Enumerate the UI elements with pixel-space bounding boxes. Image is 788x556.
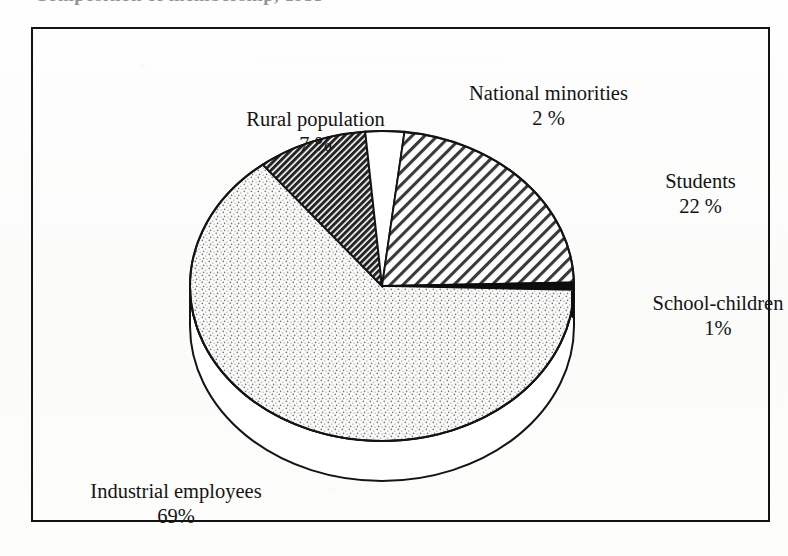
pie-wall-school-children [571, 290, 574, 319]
label-national-minorities-pct: 2 % [426, 106, 671, 131]
label-national-minorities-name: National minorities [426, 81, 671, 106]
label-industrial-employees: Industrial employees 69% [41, 479, 311, 530]
label-rural-population-name: Rural population [208, 107, 423, 132]
chart-title-text: Composition of membership, 1953 [34, 0, 464, 6]
label-school-children-name: School-children [618, 291, 788, 316]
label-industrial-employees-name: Industrial employees [41, 479, 311, 504]
chart-frame: Rural population 7 % National minorities… [31, 27, 770, 522]
label-students-name: Students [613, 169, 788, 194]
label-national-minorities: National minorities 2 % [426, 81, 671, 132]
chart-stage: Rural population 7 % National minorities… [33, 29, 768, 520]
label-school-children: School-children 1% [618, 291, 788, 342]
label-school-children-pct: 1% [618, 316, 788, 341]
label-rural-population-pct: 7 % [208, 132, 423, 157]
label-students-pct: 22 % [613, 194, 788, 219]
chart-title-clipped: Composition of membership, 1953 [34, 0, 464, 9]
label-students: Students 22 % [613, 169, 788, 220]
label-rural-population: Rural population 7 % [208, 107, 423, 158]
label-industrial-employees-pct: 69% [41, 504, 311, 529]
